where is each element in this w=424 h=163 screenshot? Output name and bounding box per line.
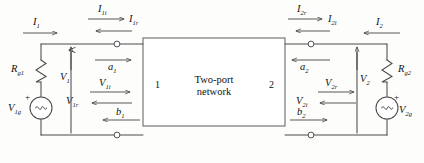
label-V1r: V1r bbox=[66, 96, 78, 107]
label-I2r: I2r bbox=[297, 4, 306, 15]
terminal-left-bottom bbox=[114, 132, 120, 138]
label-V2r-sub: 2r bbox=[331, 83, 337, 90]
label-V2: V2 bbox=[360, 74, 370, 85]
label-I1r-sub: 1r bbox=[133, 19, 139, 26]
polarity-plus-left: + bbox=[25, 92, 30, 102]
label-V2-sub: 2 bbox=[366, 79, 369, 86]
left-resistor-zigzag bbox=[36, 60, 46, 82]
label-b2: b2 bbox=[297, 107, 306, 118]
label-Rg2-sub: g2 bbox=[404, 69, 411, 76]
right-resistor-zigzag bbox=[382, 60, 392, 82]
label-V2g: V2g bbox=[399, 105, 412, 116]
label-I1: I1 bbox=[33, 17, 40, 28]
two-port-network-diagram: Two-port network 1 2 I1 I1i I1r Rg1 V1g … bbox=[0, 0, 424, 163]
two-port-box-label: Two-port network bbox=[174, 74, 254, 99]
label-V1-sub: 1 bbox=[66, 77, 69, 84]
label-V1: V1 bbox=[60, 72, 70, 83]
label-Rg2: Rg2 bbox=[398, 64, 411, 75]
label-a1-sub: 1 bbox=[113, 67, 116, 74]
label-V1g: V1g bbox=[8, 103, 21, 114]
label-I2r-sub: 2r bbox=[301, 9, 307, 16]
port-number-1: 1 bbox=[155, 79, 160, 90]
label-b2-sub: 2 bbox=[302, 112, 305, 119]
terminal-left-top bbox=[114, 41, 120, 47]
label-I1i-sub: 1i bbox=[102, 9, 107, 16]
label-b1: b1 bbox=[116, 107, 125, 118]
label-I1r: I1r bbox=[129, 14, 138, 25]
polarity-plus-right: + bbox=[394, 92, 399, 102]
box-label-line1: Two-port bbox=[195, 74, 234, 85]
label-I1-sub: 1 bbox=[37, 22, 40, 29]
label-V2i: V2i bbox=[296, 96, 308, 107]
label-V2g-sub: 2g bbox=[405, 110, 412, 117]
terminal-right-bottom bbox=[308, 132, 314, 138]
label-a1: a1 bbox=[108, 62, 117, 73]
label-a2-sub: 2 bbox=[305, 67, 308, 74]
label-I2i-sub: 2i bbox=[332, 19, 337, 26]
label-V1g-sub: 1g bbox=[14, 108, 21, 115]
label-I1i: I1i bbox=[98, 4, 107, 15]
label-I2i: I2i bbox=[328, 14, 337, 25]
label-V1i: V1i bbox=[99, 78, 111, 89]
label-Rg1: Rg1 bbox=[11, 64, 24, 75]
terminal-right-top bbox=[308, 41, 314, 47]
label-I2-sub: 2 bbox=[380, 22, 383, 29]
label-V1r-sub: 1r bbox=[72, 101, 78, 108]
label-V1i-sub: 1i bbox=[105, 83, 110, 90]
box-label-line2: network bbox=[197, 86, 231, 97]
label-a2: a2 bbox=[300, 62, 309, 73]
label-I2: I2 bbox=[376, 17, 383, 28]
label-b1-sub: 1 bbox=[121, 112, 124, 119]
label-Rg1-sub: g1 bbox=[17, 69, 24, 76]
port-number-2: 2 bbox=[269, 79, 274, 90]
label-V2r: V2r bbox=[325, 78, 337, 89]
